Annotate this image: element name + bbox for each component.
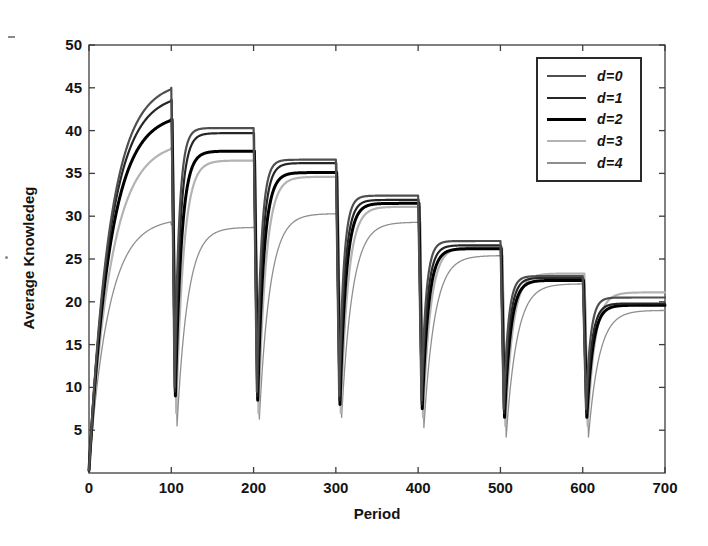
legend-line-sample-d3 bbox=[547, 140, 586, 142]
scan-artifact bbox=[8, 36, 15, 38]
y-tick-label: 15 bbox=[65, 336, 82, 353]
x-axis-title: Period bbox=[354, 505, 401, 522]
y-tick-label: 5 bbox=[74, 421, 82, 438]
legend-label-d4: d=4 bbox=[597, 155, 623, 171]
legend-entry-d0: d=0 bbox=[547, 68, 640, 84]
y-tick-label: 10 bbox=[65, 378, 82, 395]
y-tick-label: 20 bbox=[65, 293, 82, 310]
legend-line-sample-d2 bbox=[547, 118, 586, 121]
legend-line-sample-d0 bbox=[547, 75, 586, 77]
x-tick-label: 700 bbox=[652, 479, 677, 496]
legend: d=0 d=1 d=2 d=3 d=4 bbox=[536, 57, 642, 182]
legend-line-sample-d1 bbox=[547, 97, 586, 99]
x-tick-label: 200 bbox=[241, 479, 266, 496]
figure-container: 0100200300400500600700510152025303540455… bbox=[0, 0, 708, 546]
legend-entry-d4: d=4 bbox=[547, 155, 640, 171]
y-tick-label: 50 bbox=[65, 36, 82, 53]
y-tick-label: 35 bbox=[65, 164, 82, 181]
legend-entry-d1: d=1 bbox=[547, 90, 640, 106]
legend-label-d1: d=1 bbox=[597, 90, 623, 106]
scan-artifact bbox=[5, 256, 8, 259]
legend-label-d2: d=2 bbox=[597, 111, 623, 127]
x-tick-label: 400 bbox=[406, 479, 431, 496]
x-tick-label: 500 bbox=[488, 479, 513, 496]
y-tick-label: 25 bbox=[65, 250, 82, 267]
x-tick-label: 600 bbox=[570, 479, 595, 496]
x-tick-label: 0 bbox=[85, 479, 93, 496]
y-tick-label: 40 bbox=[65, 122, 82, 139]
y-tick-label: 30 bbox=[65, 207, 82, 224]
legend-label-d0: d=0 bbox=[597, 68, 623, 84]
legend-entry-d3: d=3 bbox=[547, 133, 640, 149]
x-tick-label: 300 bbox=[323, 479, 348, 496]
x-tick-label: 100 bbox=[159, 479, 184, 496]
legend-label-d3: d=3 bbox=[597, 133, 623, 149]
legend-entry-d2: d=2 bbox=[547, 111, 640, 127]
y-axis-title: Average Knowledeg bbox=[20, 187, 37, 330]
y-tick-label: 45 bbox=[65, 79, 82, 96]
legend-line-sample-d4 bbox=[547, 162, 586, 164]
